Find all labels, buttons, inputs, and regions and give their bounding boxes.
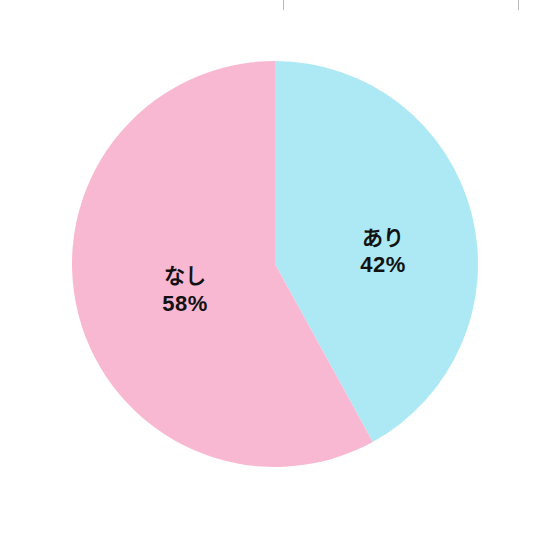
pie-slice-label-nashi-name: なし (164, 265, 207, 286)
pie-chart-svg (0, 0, 552, 542)
pie-slice-label-nashi-value: 58% (162, 293, 208, 315)
pie-chart-page: ・・ ・・ ・・ ・ ・・ あり 42% なし 58% (0, 0, 552, 542)
pie-slice-label-ari-name: あり (362, 227, 405, 248)
pie-chart: あり 42% なし 58% (0, 0, 552, 542)
pie-slice-label-ari-value: 42% (360, 254, 406, 276)
pie-slices (72, 61, 478, 467)
